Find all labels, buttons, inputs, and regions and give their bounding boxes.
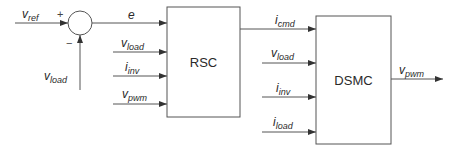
label-dsmc-v-load: vload [271,47,294,63]
label-rsc-i-inv: iinv [125,61,139,77]
summing-junction [68,11,92,35]
label-v-ref: vref [22,8,39,24]
label-dsmc-i-inv: iinv [276,82,290,98]
minus-sign: − [66,38,72,49]
label-v-load-feedback: vload [44,70,67,86]
label-rsc-v-pwm: vpwm [122,88,147,104]
label-rsc-v-load: vload [121,37,144,53]
label-dsmc-i-load: iload [273,116,293,132]
label-e: e [128,9,135,21]
rsc-block-label: RSC [167,56,240,69]
label-i-cmd: icmd [275,14,295,30]
label-v-pwm-output: vpwm [399,64,424,80]
plus-sign: + [57,9,63,20]
dsmc-block-label: DSMC [316,74,391,87]
